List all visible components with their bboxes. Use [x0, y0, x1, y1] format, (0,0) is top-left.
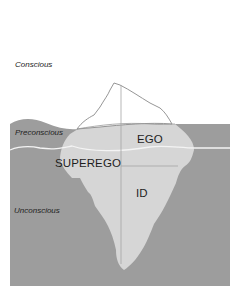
label-id: ID — [136, 187, 148, 199]
label-conscious: Conscious — [15, 60, 52, 69]
iceberg-graphic — [0, 0, 241, 299]
label-superego: SUPEREGO — [55, 157, 121, 169]
iceberg-diagram: Conscious Preconscious Unconscious EGO S… — [0, 0, 241, 299]
label-preconscious: Preconscious — [15, 128, 63, 137]
label-ego: EGO — [137, 133, 163, 145]
label-unconscious: Unconscious — [14, 206, 60, 215]
iceberg-tip — [77, 83, 172, 129]
